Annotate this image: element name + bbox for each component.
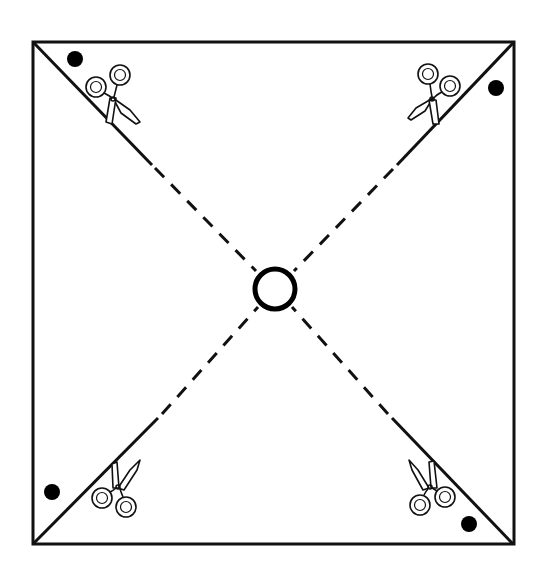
pinwheel-template-diagram: Pinwheel cutting template bbox=[0, 0, 545, 572]
dashed-line-bottom-right bbox=[292, 307, 388, 414]
cut-line-top-left bbox=[33, 42, 152, 165]
dot-icon-bottom-left bbox=[44, 484, 60, 500]
scissors-icon-top-right bbox=[408, 64, 460, 124]
diagonal-top-right bbox=[294, 42, 514, 271]
cut-line-bottom-right bbox=[392, 418, 513, 544]
scissors-icon-bottom-left bbox=[92, 460, 140, 517]
dot-icon-bottom-right bbox=[461, 516, 477, 532]
dashed-line-top-left bbox=[155, 168, 256, 271]
diagonal-bottom-left bbox=[33, 307, 258, 544]
dashed-line-bottom-left bbox=[162, 307, 258, 414]
diagonal-top-left bbox=[33, 42, 256, 271]
cut-line-top-right bbox=[397, 42, 514, 165]
center-hole-icon bbox=[255, 269, 295, 309]
scissors-icon-bottom-right bbox=[409, 460, 455, 515]
dot-icon-top-left bbox=[67, 51, 83, 67]
cut-line-bottom-left bbox=[33, 418, 158, 544]
dashed-line-top-right bbox=[294, 169, 393, 271]
scissors-icon-top-left bbox=[86, 65, 140, 124]
dot-icon-top-right bbox=[488, 80, 504, 96]
diagonal-bottom-right bbox=[292, 307, 513, 544]
